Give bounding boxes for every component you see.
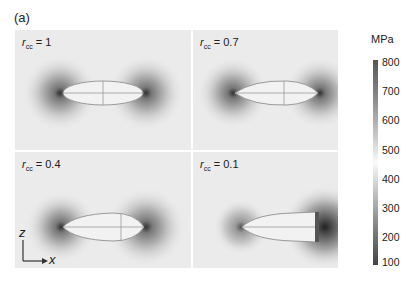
x-axis-label: x bbox=[49, 252, 56, 267]
panel-label: rcc = 1 bbox=[22, 36, 51, 50]
stress-map-panel-rcc-0.1: rcc = 0.1 bbox=[193, 152, 338, 268]
panel-label: rcc = 0.1 bbox=[200, 158, 239, 172]
colorbar-tick: 100 bbox=[382, 256, 400, 268]
colorbar-tick: 400 bbox=[382, 173, 400, 185]
panel-label: rcc = 0.4 bbox=[22, 158, 61, 172]
panel-letter: (a) bbox=[14, 10, 30, 25]
axes-indicator: z x bbox=[18, 228, 58, 272]
colorbar-unit: MPa bbox=[371, 33, 394, 45]
colorbar-tick: 800 bbox=[382, 56, 400, 68]
colorbar-tick: 300 bbox=[382, 202, 400, 214]
colorbar-tick: 200 bbox=[382, 231, 400, 243]
colorbar-tick: 700 bbox=[382, 85, 400, 97]
z-axis-label: z bbox=[19, 225, 26, 240]
colorbar bbox=[373, 60, 378, 265]
colorbar-tick: 600 bbox=[382, 114, 400, 126]
stress-map-panel-rcc-0.7: rcc = 0.7 bbox=[193, 30, 338, 150]
panel-label: rcc = 0.7 bbox=[200, 36, 239, 50]
stress-map-panel-rcc-1: rcc = 1 bbox=[15, 30, 191, 150]
colorbar-tick: 500 bbox=[382, 144, 400, 156]
